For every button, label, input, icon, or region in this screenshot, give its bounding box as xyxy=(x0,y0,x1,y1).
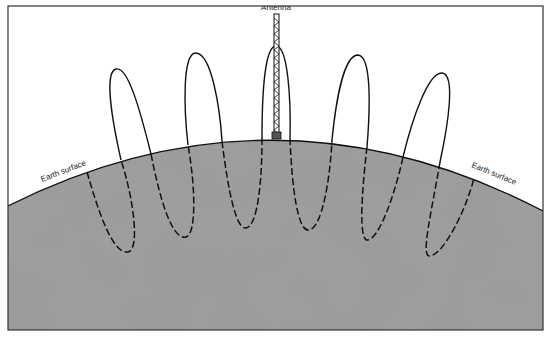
antenna-base xyxy=(272,132,281,139)
antenna-label: Antenna xyxy=(261,3,291,12)
radiation-pattern-diagram: Antenna Earth surface Earth surface xyxy=(0,0,551,337)
